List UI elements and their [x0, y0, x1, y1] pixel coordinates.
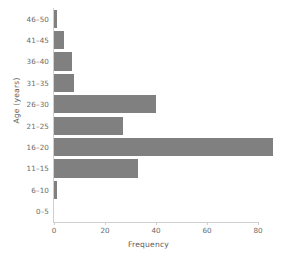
bar-row: 46–50 [54, 8, 258, 29]
x-tick-mark [156, 222, 157, 225]
y-tick-label: 31–35 [27, 78, 49, 87]
bar [54, 31, 64, 49]
bar-chart-figure: Age (years) 46–5041–4536–4031–3526–3021–… [0, 0, 297, 268]
bar-row: 31–35 [54, 72, 258, 93]
bar-row: 0–5 [54, 201, 258, 222]
y-tick-label: 6–10 [31, 185, 49, 194]
bar [54, 117, 123, 135]
y-tick-label: 41–45 [27, 36, 49, 45]
y-tick-label: 11–15 [27, 164, 49, 173]
bar-row: 41–45 [54, 29, 258, 50]
x-tick-mark [258, 222, 259, 225]
y-tick-label: 16–20 [27, 143, 49, 152]
y-axis-label-wrapper: Age (years) [0, 0, 40, 230]
bar-row: 21–25 [54, 115, 258, 136]
y-tick-label: 0–5 [36, 207, 49, 216]
bar-row: 16–20 [54, 136, 258, 157]
x-axis-label: Frequency [0, 240, 297, 249]
x-tick-label: 40 [151, 226, 160, 235]
bar [54, 52, 72, 70]
bar [54, 95, 156, 113]
plot-area: 46–5041–4536–4031–3526–3021–2516–2011–15… [54, 8, 258, 222]
bar [54, 181, 57, 199]
bar [54, 138, 273, 156]
x-tick-label: 20 [100, 226, 109, 235]
bar-row: 26–30 [54, 94, 258, 115]
y-tick-label: 21–25 [27, 121, 49, 130]
x-tick-mark [207, 222, 208, 225]
x-tick-label: 80 [253, 226, 262, 235]
bar-row: 6–10 [54, 179, 258, 200]
bar [54, 10, 57, 28]
y-axis-label: Age (years) [12, 77, 21, 123]
bar [54, 159, 138, 177]
x-tick-mark [105, 222, 106, 225]
x-tick-mark [54, 222, 55, 225]
bar-row: 36–40 [54, 51, 258, 72]
x-tick-label: 60 [202, 226, 211, 235]
x-tick-label: 0 [52, 226, 57, 235]
y-tick-label: 36–40 [27, 57, 49, 66]
y-tick-label: 46–50 [27, 14, 49, 23]
bar [54, 74, 74, 92]
bar-row: 11–15 [54, 158, 258, 179]
y-tick-label: 26–30 [27, 100, 49, 109]
